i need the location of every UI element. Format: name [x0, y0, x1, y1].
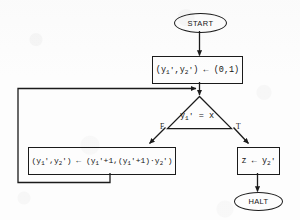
node-start-label: START	[188, 19, 214, 28]
node-test-label: y1' = x	[180, 106, 214, 122]
flowchart-connectors	[0, 0, 300, 220]
node-init-label: (y1',y2') ← (0,1)	[156, 65, 239, 76]
node-halt-label: HALT	[248, 197, 268, 206]
node-output[interactable]: z ← y2'	[237, 147, 280, 175]
node-start[interactable]: START	[174, 13, 227, 33]
node-halt[interactable]: HALT	[234, 192, 283, 211]
node-init[interactable]: (y1',y2') ← (0,1)	[152, 56, 243, 84]
node-loop-body-label: (y1',y2') ← (y1'+1,(y1'+1)·y2')	[32, 156, 173, 167]
node-output-label: z ← y2'	[241, 156, 275, 167]
branch-label-false: F	[160, 123, 164, 131]
node-loop-body[interactable]: (y1',y2') ← (y1'+1,(y1'+1)·y2')	[28, 147, 176, 175]
branch-label-true: T	[236, 123, 241, 131]
flowchart-page: START (y1',y2') ← (0,1) y1' = x F T (y1'…	[0, 0, 300, 220]
